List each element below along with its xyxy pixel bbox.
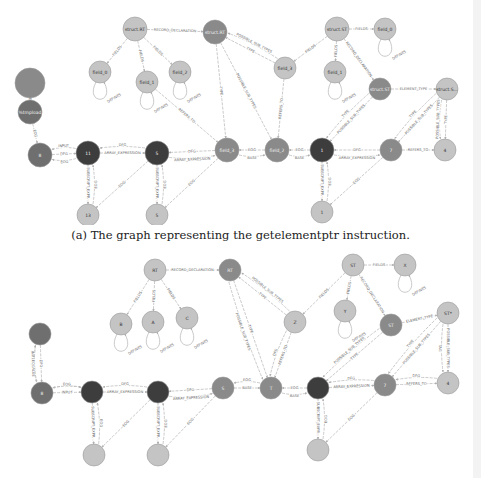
svg-text:DFG: DFG	[121, 382, 129, 386]
graph-node-rt: RT	[219, 259, 241, 281]
svg-text:RT: RT	[227, 268, 233, 273]
edge-record-declaration: RECORD_DECLARATION	[359, 274, 385, 315]
edge-type: TYPE	[395, 94, 436, 139]
edge-fields: FIELDS	[138, 41, 145, 72]
svg-text:DEFINES: DEFINES	[107, 92, 123, 104]
svg-text:BASE: BASE	[290, 394, 300, 398]
svg-text:ST: ST	[350, 263, 356, 268]
svg-text:5: 5	[156, 213, 159, 218]
graph-node-t: T	[260, 377, 282, 399]
edge-initial-value: INITIAL_VALUE	[31, 345, 37, 382]
edge-input: INPUT	[52, 144, 76, 150]
svg-text:EOG: EOG	[296, 148, 304, 152]
svg-text:EOG: EOG	[324, 415, 328, 423]
edge-eog: EOG	[53, 382, 81, 387]
graph-node	[15, 68, 45, 98]
edge-tag: TAG	[438, 324, 443, 372]
edge-array-expression: ARRAY_EXPRESSION	[103, 390, 147, 394]
edge-dfg: DFG	[334, 148, 380, 152]
edge-defines: DEFINES	[378, 39, 407, 61]
graph-node-field-3: field_3	[215, 138, 239, 162]
graph-node-1: 1	[310, 138, 334, 162]
svg-text:SUBSCRIPT_EXPR...: SUBSCRIPT_EXPR...	[155, 167, 159, 202]
graph-node-field-1: field_1	[136, 71, 158, 93]
graph-node-y: Y	[334, 300, 356, 322]
svg-text:TYPE: TYPE	[247, 323, 254, 334]
svg-text:FIELDS: FIELDS	[166, 288, 177, 301]
svg-text:Z: Z	[293, 320, 296, 325]
edge-defines: DEFINES	[173, 82, 202, 104]
edge-base: BASE	[289, 155, 310, 160]
edge-subscript-expr-: SUBSCRIPT_EXPR...	[86, 165, 90, 204]
edge-refers-to: REFERS_TO	[275, 332, 291, 377]
svg-text:REFERS_TO: REFERS_TO	[406, 382, 427, 387]
svg-text:ELEMENT_TYPE: ELEMENT_TYPE	[406, 314, 434, 324]
edge-eog: EOG	[323, 399, 328, 439]
svg-text:POSSIBLE_SUB_TYPES: POSSIBLE_SUB_TYPES	[404, 103, 434, 135]
svg-text:struct.S...: struct.S...	[436, 87, 458, 92]
graph-node	[83, 444, 105, 466]
svg-text:REFERS_TO: REFERS_TO	[177, 107, 195, 124]
edge-layer: DFGINITIAL_VALUEEOGINPUTDFGEOGARRAY_EXPR…	[31, 263, 450, 447]
svg-text:ARRAY_EXPRESSION: ARRAY_EXPRESSION	[173, 395, 210, 401]
graph-node	[307, 439, 329, 461]
svg-text:ARRAY_EXPRESSION: ARRAY_EXPRESSION	[104, 151, 141, 155]
edge-possible-sub-types: POSSIBLE_SUB_TYPES	[435, 99, 441, 139]
edge-eog: EOG	[163, 403, 168, 444]
svg-text:EOG: EOG	[291, 386, 299, 390]
edge-type: TYPE	[444, 100, 448, 139]
edge-eog: EOG	[162, 165, 167, 204]
edge-defines: DEFINES	[180, 328, 209, 350]
graph-node-1: 1	[311, 201, 333, 223]
edge-eog: EOG	[166, 396, 216, 447]
edge-fields: FIELDS	[294, 36, 328, 61]
svg-text:FIELDS: FIELDS	[152, 289, 157, 302]
edge-fields: FIELDS	[152, 281, 157, 311]
svg-text:SUBSCRIPT_EXPR...: SUBSCRIPT_EXPR...	[320, 164, 324, 199]
svg-text:TYPE: TYPE	[257, 291, 268, 301]
svg-text:DFG: DFG	[353, 148, 361, 152]
edge-record-declaration: RECORD_DECLARATION	[344, 39, 374, 80]
graph-node-c: C	[176, 307, 198, 329]
svg-text:C: C	[185, 316, 188, 321]
edge-eog: EOG	[239, 148, 265, 152]
edge-element-type: ELEMENT_TYPE	[402, 314, 437, 324]
svg-text:REFERS_TO: REFERS_TO	[408, 148, 429, 152]
svg-text:TYPE: TYPE	[218, 85, 223, 96]
svg-text:ELEMENT_TYPE: ELEMENT_TYPE	[400, 87, 428, 91]
svg-text:POSSIBLE_SUB_TYPES: POSSIBLE_SUB_TYPES	[435, 99, 440, 139]
svg-text:struct.RT: struct.RT	[125, 27, 145, 32]
edge-fields: FIELDS	[107, 38, 127, 63]
svg-text:5: 5	[156, 151, 159, 156]
edge-subscript-expr-: SUBSCRIPT_EXPR...	[320, 162, 324, 201]
svg-text:DEFINES: DEFINES	[194, 338, 210, 350]
svg-text:DEFINES: DEFINES	[352, 331, 368, 343]
graph-node-13: 13	[77, 204, 99, 225]
svg-text:DFG: DFG	[119, 143, 127, 147]
edge-eog: EOG	[32, 124, 38, 144]
edge-possible-sub-types: POSSIBLE_SUB_TYPES	[446, 324, 450, 372]
svg-text:DFG: DFG	[188, 149, 196, 153]
edge-type: TYPE	[234, 280, 268, 377]
svg-text:4: 4	[447, 381, 450, 386]
svg-text:struct.ST: struct.ST	[327, 27, 347, 32]
svg-text:1: 1	[321, 210, 324, 215]
svg-text:13: 13	[85, 213, 91, 218]
svg-text:ARRAY_EXPRESSION: ARRAY_EXPRESSION	[339, 156, 376, 160]
graph-node-struct-rt: struct.RT	[203, 20, 227, 44]
svg-text:DFG: DFG	[347, 376, 355, 380]
edge-dfg: DFG	[329, 376, 374, 382]
svg-text:TYPE: TYPE	[245, 46, 256, 54]
edge-refers-to: REFERS_TO	[396, 382, 437, 387]
edge-fields: FIELDS	[161, 279, 181, 309]
svg-text:FIELDS: FIELDS	[373, 263, 386, 267]
svg-text:POSSIBLE_SUB_TYPES: POSSIBLE_SUB_TYPES	[235, 312, 252, 351]
edge-subscript-expr-: SUBSCRIPT_EXPR...	[156, 403, 160, 444]
svg-text:EOG: EOG	[164, 419, 168, 427]
edge-defines: DEFINES	[338, 321, 367, 343]
edge-eog: EOG	[97, 403, 103, 444]
edge-array-expression: ARRAY_EXPRESSION	[329, 384, 374, 390]
edge-array-expression: ARRAY_EXPRESSION	[169, 156, 215, 163]
edge-eog: EOG	[326, 393, 377, 443]
svg-text:struct.ST: struct.ST	[370, 87, 390, 92]
